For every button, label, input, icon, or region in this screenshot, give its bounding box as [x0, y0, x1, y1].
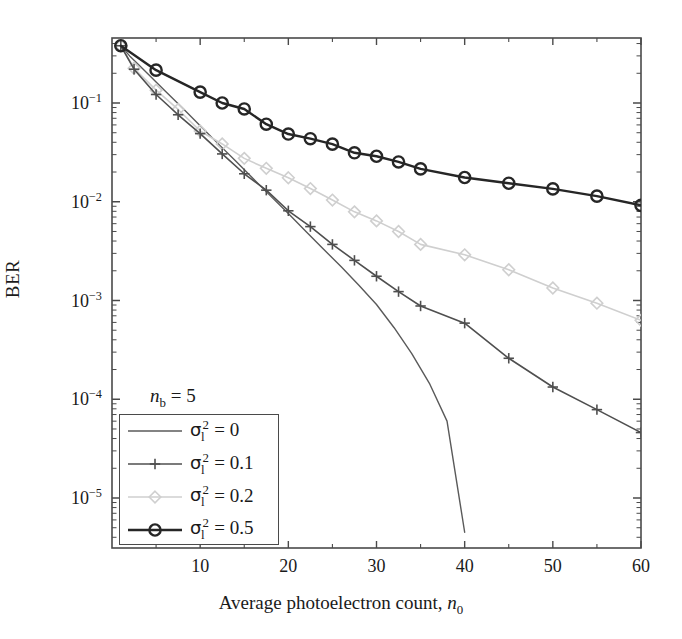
legend-label: σ2l = 0.5: [190, 517, 253, 542]
y-tick-label: 10−1: [24, 91, 102, 114]
y-tick-label: 10−5: [24, 486, 102, 509]
x-tick-label: 30: [347, 556, 407, 577]
legend-label: σ2l = 0.2: [190, 484, 253, 509]
chart-canvas: [0, 0, 682, 639]
y-axis-label: BER: [2, 260, 24, 298]
legend[interactable]: σ2l = 0σ2l = 0.1σ2l = 0.2σ2l = 0.5: [119, 414, 279, 545]
legend-label: σ2l = 0.1: [190, 452, 253, 477]
y-tick-label: 10−4: [24, 387, 102, 410]
x-tick-label: 50: [523, 556, 583, 577]
legend-item[interactable]: σ2l = 0.1: [120, 448, 278, 481]
legend-item[interactable]: σ2l = 0.5: [120, 513, 278, 546]
x-axis-label-sub: 0: [457, 602, 463, 617]
legend-item[interactable]: σ2l = 0: [120, 415, 278, 448]
legend-label: σ2l = 0: [190, 419, 239, 444]
legend-swatch: [126, 454, 184, 474]
x-axis-label-text: Average photoelectron count,: [219, 592, 448, 613]
legend-swatch: [126, 421, 184, 441]
x-axis-label: Average photoelectron count, n0: [0, 592, 682, 618]
x-axis-label-var: n: [447, 592, 457, 613]
x-tick-label: 10: [170, 556, 230, 577]
annotation-var: n: [150, 385, 160, 406]
legend-swatch: [126, 487, 184, 507]
y-tick-label: 10−3: [24, 289, 102, 312]
annotation-nb: nb = 5: [150, 385, 196, 411]
x-tick-label: 60: [611, 556, 671, 577]
x-tick-label: 20: [258, 556, 318, 577]
figure-root: BER Average photoelectron count, n0 nb =…: [0, 0, 682, 639]
annotation-eq: = 5: [166, 385, 196, 406]
legend-swatch: [126, 520, 184, 540]
x-tick-label: 40: [435, 556, 495, 577]
y-tick-label: 10−2: [24, 190, 102, 213]
legend-item[interactable]: σ2l = 0.2: [120, 481, 278, 514]
